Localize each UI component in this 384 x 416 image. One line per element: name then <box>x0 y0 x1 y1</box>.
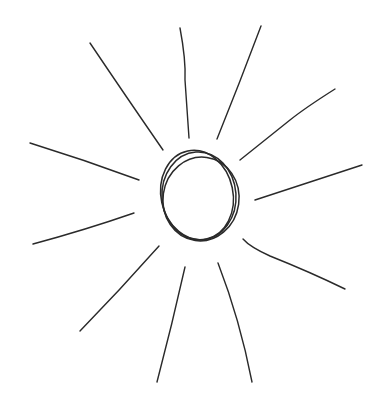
sun-body-icon <box>152 143 244 246</box>
sun-ray-11 <box>243 239 345 289</box>
sun-ray-4 <box>240 89 335 160</box>
sun-ray-5 <box>30 143 139 180</box>
sun-ray-7 <box>33 213 134 244</box>
sun-ray-3 <box>217 26 261 139</box>
sun-rays <box>30 26 362 382</box>
sun-ray-6 <box>255 165 362 200</box>
sun-sketch <box>0 0 384 416</box>
sun-ring-3 <box>152 143 241 246</box>
sun-ray-1 <box>90 43 163 150</box>
sun-ray-9 <box>157 267 185 382</box>
sun-ray-10 <box>218 263 252 382</box>
sun-ray-8 <box>80 246 159 331</box>
sun-ray-2 <box>180 28 189 138</box>
